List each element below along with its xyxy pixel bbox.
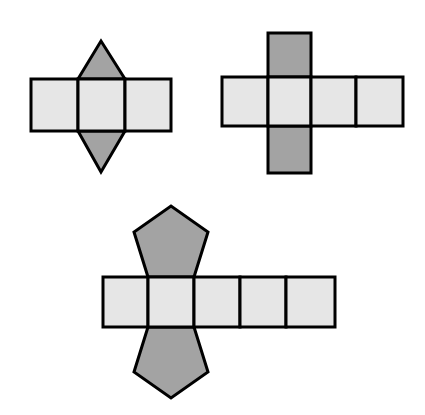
triangle-lateral-face-3 [125, 79, 171, 131]
cuboid-lateral-face-3 [311, 77, 356, 126]
pentagon-lateral-face-3 [194, 277, 240, 327]
cuboid-lateral-face-4 [356, 77, 403, 126]
cuboid-lateral-face-2 [268, 77, 311, 126]
triangle-lateral-face-2 [78, 79, 125, 131]
pentagon-lateral-face-1 [103, 277, 148, 327]
figure-background [0, 0, 425, 415]
pentagon-lateral-face-4 [240, 277, 286, 327]
triangle-lateral-face-1 [31, 79, 78, 131]
pentagon-lateral-face-5 [286, 277, 335, 327]
cuboid-base-face-bottom [268, 126, 311, 173]
cuboid-base-face-top [268, 33, 311, 77]
polyhedron-nets-figure: Polyhedron nets [0, 0, 425, 415]
cuboid-lateral-face-1 [222, 77, 268, 126]
pentagon-lateral-face-2 [148, 277, 194, 327]
